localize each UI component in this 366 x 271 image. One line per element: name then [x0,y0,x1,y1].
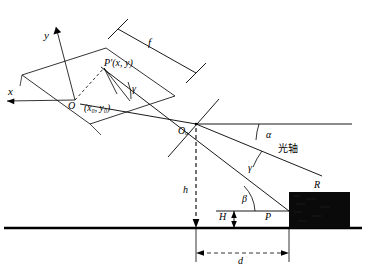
chief-ray-to-target [101,67,289,211]
label-target-R: R [314,180,320,190]
optical-axis-line [196,124,322,176]
label-height-H: H [219,212,226,222]
distance-d-arrow-right [281,250,289,256]
label-gamma-image: γ [132,84,136,94]
angle-arc-alpha [256,124,259,140]
height-H-arrow-up [231,211,237,218]
label-lens-center: Oₒ [178,126,188,136]
height-h-arrowhead [193,219,200,228]
label-target-point-P: P [265,212,271,222]
label-gamma-object: γ [248,163,252,173]
label-distance-d: d [238,256,243,266]
image-plane-dashed-ray [75,68,104,100]
target-object-R [289,192,350,228]
label-principal-point: (x₀, y₀) [84,104,110,114]
lens-center-dot [195,123,198,126]
focal-length-dimension [108,19,206,83]
label-focal-length: f [148,37,151,48]
label-height-h: h [183,185,188,195]
image-plane-x-axis [7,99,75,105]
label-beta: β [242,194,247,204]
angle-arc-gamma-object [253,151,262,167]
angle-arc-gamma-image [128,82,131,99]
label-origin-O: O [68,101,75,111]
image-point-construction [104,68,130,101]
lens-plane-line [168,99,219,157]
distance-d-arrow-left [196,250,204,256]
label-image-point: P'(x, y) [104,58,133,68]
label-axis-y: y [44,30,49,41]
label-axis-x: x [8,86,13,97]
label-alpha: α [266,130,271,140]
label-optical-axis: 光轴 [278,144,298,154]
